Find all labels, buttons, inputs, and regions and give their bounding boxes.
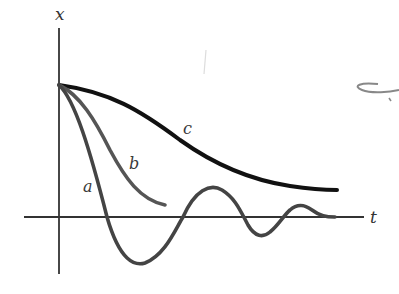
stray-pen-mark-tail (389, 98, 391, 101)
damping-diagram: x t c b a (0, 0, 399, 294)
curve-b (59, 85, 165, 205)
stray-mark (204, 50, 206, 74)
stray-pen-mark (358, 83, 399, 92)
curve-a (59, 85, 335, 264)
x-axis-label: t (370, 207, 377, 227)
curve-b-label: b (129, 154, 139, 173)
y-axis-label: x (55, 4, 65, 24)
curve-a-label: a (83, 177, 93, 196)
curve-c-label: c (183, 119, 192, 138)
curve-c (59, 85, 337, 190)
